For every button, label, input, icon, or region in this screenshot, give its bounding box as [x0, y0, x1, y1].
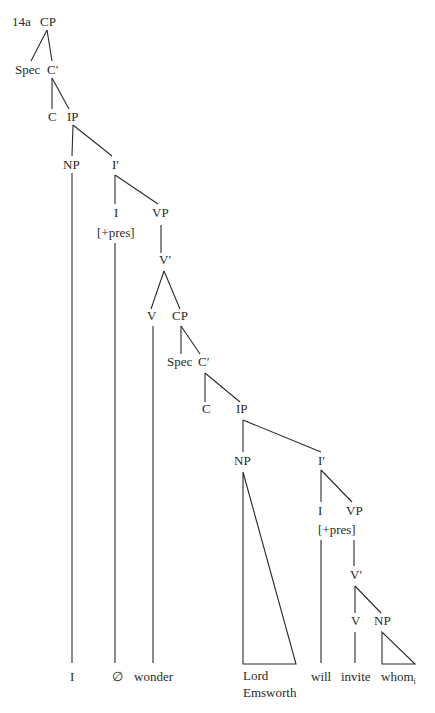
- branch: [355, 586, 381, 613]
- leaf-whom: whomi: [381, 669, 417, 686]
- leaf-whom-index: i: [414, 677, 417, 686]
- node-i-2-feature: [+pres]: [318, 522, 356, 537]
- node-vp-2: VP: [346, 503, 363, 518]
- node-v-2: V: [351, 613, 361, 628]
- branch: [115, 175, 158, 204]
- node-vp-1: VP: [152, 205, 169, 220]
- node-np-3: NP: [374, 613, 391, 628]
- branch: [164, 271, 180, 309]
- node-i-1: I: [114, 205, 118, 220]
- branch: [321, 470, 352, 502]
- node-np-2: NP: [234, 453, 251, 468]
- branch: [73, 125, 112, 156]
- leaf-whom-word: whom: [381, 669, 414, 684]
- branch: [243, 420, 321, 452]
- np-triangle-lord-emsworth: [243, 472, 296, 664]
- leaf-null-infl: ∅: [112, 669, 123, 684]
- node-spec-2: Spec: [167, 354, 193, 369]
- branch: [52, 78, 69, 109]
- np-triangle-whom: [382, 632, 415, 664]
- node-ip-1: IP: [67, 109, 79, 124]
- node-c-2: C: [202, 401, 211, 416]
- leaf-wonder: wonder: [134, 669, 174, 684]
- node-vbar-2: V′: [350, 567, 362, 582]
- node-ip-2: IP: [236, 401, 248, 416]
- leaf-lord: Lord: [243, 668, 269, 683]
- node-cbar-2: C′: [198, 354, 210, 369]
- node-cp-2: CP: [172, 308, 188, 323]
- node-i-1-feature: [+pres]: [97, 225, 135, 240]
- node-ibar-2: I′: [318, 453, 325, 468]
- leaf-invite: invite: [341, 669, 371, 684]
- node-spec-1: Spec: [15, 62, 41, 77]
- branch: [31, 30, 47, 61]
- node-v-1: V: [147, 308, 157, 323]
- branch: [151, 271, 164, 309]
- node-cbar-1: C′: [47, 62, 59, 77]
- leaf-emsworth: Emsworth: [243, 685, 297, 700]
- branch: [47, 30, 52, 61]
- branch: [181, 326, 200, 354]
- branch: [72, 125, 73, 156]
- node-i-2: I: [318, 503, 322, 518]
- example-label: 14a: [12, 14, 31, 29]
- branch: [205, 373, 240, 402]
- syntax-tree: 14a CP Spec C′ C IP NP I′ I [+pres] VP V…: [0, 0, 435, 713]
- node-np-1: NP: [63, 157, 80, 172]
- node-vbar-1: V′: [159, 252, 171, 267]
- leaf-pronoun-i: I: [70, 669, 74, 684]
- node-c-1: C: [48, 109, 57, 124]
- leaf-will: will: [311, 669, 332, 684]
- node-ibar-1: I′: [112, 157, 119, 172]
- node-cp-root: CP: [40, 14, 56, 29]
